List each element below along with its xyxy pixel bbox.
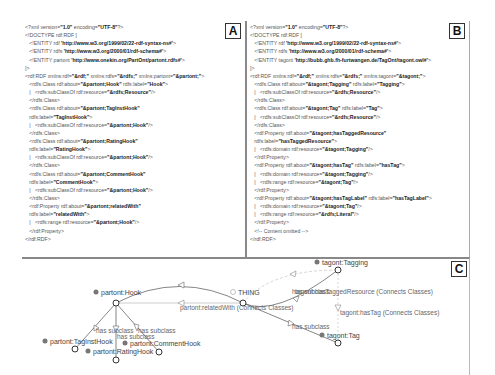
node-hook[interactable] (113, 300, 119, 306)
ontology-graph: partont:Hook THING tagont:Tagging tagont… (0, 0, 495, 375)
class-dot-icon (315, 260, 320, 265)
edge-label-tagged-resource: tagont:hasTaggedResource (Connects Class… (295, 288, 433, 296)
arrow-icon (293, 296, 299, 302)
node-ratinghook[interactable] (113, 357, 119, 363)
node-label-taginsthook: partont:TagInstHook (50, 338, 113, 346)
node-label-tagging: tagont:Tagging (322, 259, 368, 267)
class-dot-icon (320, 333, 325, 338)
arrow-icon (290, 271, 296, 277)
edge-label-has-subclass-2: has subclass (117, 333, 155, 340)
edge-thing-tagging-dashed (243, 270, 338, 303)
node-commenthook[interactable] (156, 349, 162, 355)
node-tagging[interactable] (335, 267, 341, 273)
arrow-icon (178, 282, 184, 288)
node-label-commenthook: partont:CommentHook (130, 340, 201, 348)
node-label-tag: tagont:Tag (327, 332, 360, 340)
class-dot-icon (43, 339, 48, 344)
class-dot-icon (86, 349, 91, 354)
node-label-thing: THING (238, 289, 260, 296)
thing-dot-icon (231, 290, 236, 295)
edge-label-has-tag: tagont:hasTag (Connects Classes) (340, 309, 439, 317)
edge-label-has-subclass-3: has subclass (138, 327, 176, 334)
class-dot-icon (94, 290, 99, 295)
node-taginsthook[interactable] (72, 346, 78, 352)
node-tag[interactable] (335, 340, 341, 346)
edge-label-related-with: partont:relatedWith (Connects Classes) (180, 304, 293, 312)
node-label-ratinghook: partont:RatingHook (93, 348, 154, 356)
edge-label-has-subclass-tag: has subclass (292, 323, 330, 330)
class-dot-icon (123, 341, 128, 346)
node-label-hook: partont:Hook (101, 289, 142, 297)
